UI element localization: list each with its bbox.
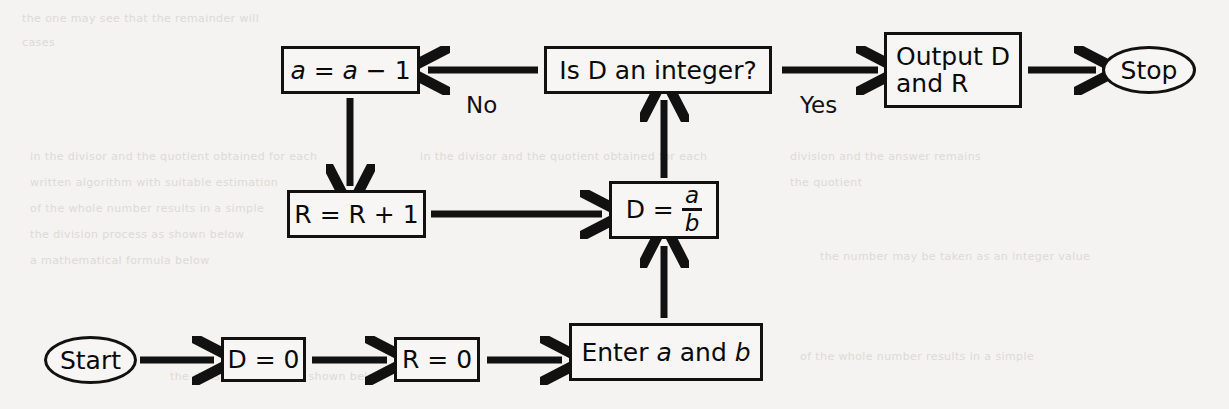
node-enter-a-b-label: Enter a and b: [572, 339, 760, 366]
ghost-text: of the whole number results in a simple: [30, 202, 240, 215]
node-output-label: Output Dand R: [887, 43, 1019, 97]
ghost-text: the one may see that the remainder will: [22, 12, 162, 25]
flowchart-canvas: the one may see that the remainder will …: [0, 0, 1229, 409]
node-divide[interactable]: D = ab: [609, 181, 719, 239]
ghost-text: in the divisor and the quotient obtained…: [420, 150, 740, 163]
node-is-d-integer[interactable]: Is D an integer?: [544, 46, 772, 94]
ghost-text: in the divisor and the quotient obtained…: [30, 150, 240, 163]
ghost-text: the quotient: [790, 176, 1050, 189]
node-d-zero-label: D = 0: [224, 346, 303, 373]
node-increment-r-label: R = R + 1: [290, 201, 423, 228]
node-stop-label: Stop: [1105, 57, 1193, 84]
node-r-zero-label: R = 0: [397, 346, 477, 373]
edge-label-no: No: [466, 92, 497, 118]
node-stop[interactable]: Stop: [1102, 46, 1196, 94]
fraction-a-over-b: ab: [682, 184, 703, 235]
edge-label-yes: Yes: [800, 92, 837, 118]
node-decrement-a[interactable]: a = a − 1: [281, 46, 420, 94]
node-start[interactable]: Start: [44, 336, 137, 384]
ghost-text: cases: [22, 36, 55, 49]
ghost-text: division and the answer remains: [790, 150, 1050, 163]
node-is-d-integer-label: Is D an integer?: [547, 57, 769, 84]
node-d-zero[interactable]: D = 0: [221, 337, 306, 382]
ghost-text: of the whole number results in a simple: [800, 350, 1060, 363]
node-enter-a-b[interactable]: Enter a and b: [569, 323, 763, 381]
ghost-text: the number may be taken as an integer va…: [820, 250, 1100, 263]
node-decrement-a-label: a = a − 1: [284, 57, 417, 84]
ghost-text: the division process as shown below: [30, 228, 220, 241]
node-start-label: Start: [47, 347, 134, 374]
ghost-text: written algorithm with suitable estimati…: [30, 176, 240, 189]
ghost-text: a mathematical formula below: [30, 254, 220, 267]
node-r-zero[interactable]: R = 0: [394, 337, 480, 382]
node-divide-label: D = ab: [612, 185, 716, 236]
node-output[interactable]: Output Dand R: [884, 32, 1022, 108]
node-increment-r[interactable]: R = R + 1: [287, 190, 426, 238]
